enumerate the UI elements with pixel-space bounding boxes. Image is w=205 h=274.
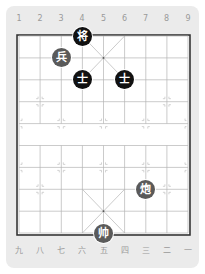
black-general-piece[interactable]: 将: [73, 27, 92, 46]
file-label-bottom: 八: [33, 246, 47, 256]
file-label-bottom: 七: [54, 246, 68, 256]
file-label-bottom: 一: [181, 246, 195, 256]
file-label-bottom: 九: [12, 246, 26, 256]
file-label-bottom: 二: [160, 246, 174, 256]
red-cannon-piece[interactable]: 炮: [136, 180, 155, 199]
file-label-bottom: 四: [118, 246, 132, 256]
red-general-piece[interactable]: 帅: [94, 224, 113, 243]
file-label-bottom: 六: [75, 246, 89, 256]
file-label-bottom: 三: [139, 246, 153, 256]
file-label-bottom: 五: [97, 246, 111, 256]
